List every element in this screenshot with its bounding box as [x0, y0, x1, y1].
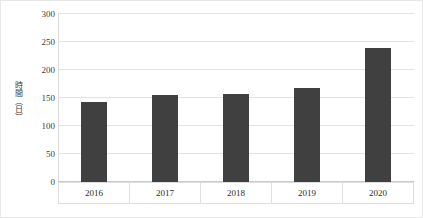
bar-slot [129, 14, 200, 182]
bar[interactable] [223, 94, 249, 182]
y-axis-tick-label: 300 [25, 10, 55, 19]
x-axis-category-label: 2020 [343, 183, 414, 203]
y-axis-tick-label: 250 [25, 38, 55, 47]
bar-slot [58, 14, 129, 182]
y-axis-tick-label: 100 [25, 122, 55, 131]
x-axis-category-label: 2016 [59, 183, 130, 203]
bar-slot [343, 14, 414, 182]
x-axis-category-label: 2019 [272, 183, 343, 203]
y-axis-tick-label: 200 [25, 66, 55, 75]
bar[interactable] [294, 88, 320, 182]
bar-slot [272, 14, 343, 182]
x-axis-category-label: 2017 [130, 183, 201, 203]
bar-slot [200, 14, 271, 182]
y-axis-tick-label: 0 [25, 178, 55, 187]
x-axis-category-table: 20162017201820192020 [58, 182, 414, 204]
bar-series [58, 14, 414, 182]
bar[interactable] [152, 95, 178, 182]
bar[interactable] [81, 102, 107, 182]
bar[interactable] [365, 48, 391, 182]
y-axis-title: 時間（日） [10, 56, 24, 146]
plot-area [58, 14, 414, 182]
y-axis-tick-labels: 050100150200250300 [25, 1, 55, 218]
bar-chart: 時間（日） 050100150200250300 201620172018201… [0, 0, 423, 218]
y-axis-tick-label: 150 [25, 94, 55, 103]
y-axis-tick-label: 50 [25, 150, 55, 159]
x-axis-category-label: 2018 [201, 183, 272, 203]
